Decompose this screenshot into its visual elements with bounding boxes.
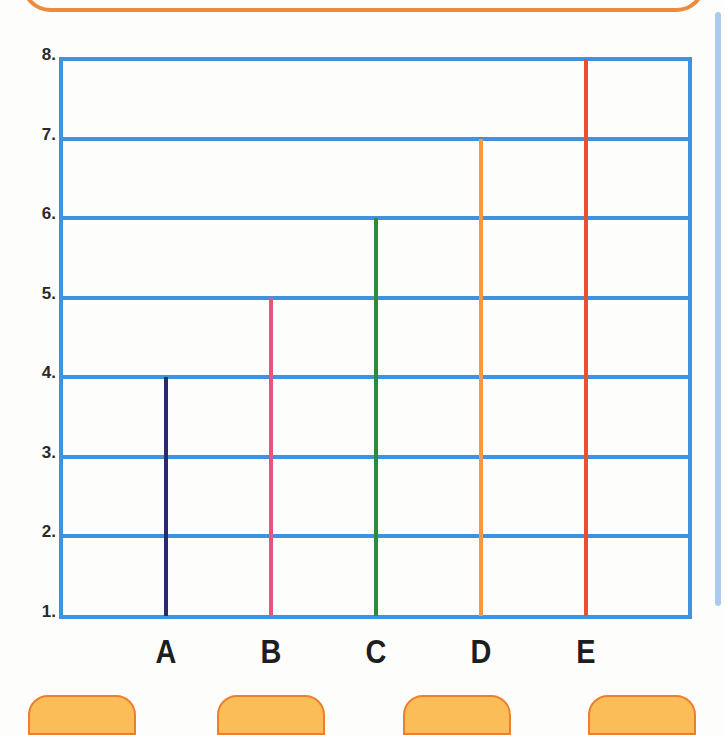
x-tick-label: E <box>569 632 603 671</box>
y-tick-label: 2. <box>30 522 56 542</box>
bar-e <box>584 59 588 616</box>
bar-d <box>479 139 483 616</box>
x-tick-label: B <box>254 632 288 671</box>
bar-c <box>374 218 378 616</box>
gridline <box>59 137 692 141</box>
y-tick-label: 3. <box>30 443 56 463</box>
bar-b <box>269 298 273 616</box>
x-tick-label: A <box>149 632 183 671</box>
x-tick-label: D <box>464 632 498 671</box>
x-tick-label: C <box>359 632 393 671</box>
y-tick-label: 7. <box>30 125 56 145</box>
bar-a <box>164 377 168 616</box>
answer-tab-1 <box>28 695 136 735</box>
y-tick-label: 6. <box>30 204 56 224</box>
y-tick-label: 8. <box>30 45 56 65</box>
answer-tab-2 <box>217 695 325 735</box>
y-tick-label: 1. <box>30 602 56 622</box>
side-accent-bar <box>715 12 721 606</box>
answer-tab-3 <box>403 695 511 735</box>
y-tick-label: 4. <box>30 363 56 383</box>
top-header-box <box>22 0 705 12</box>
answer-tab-4 <box>588 695 696 735</box>
y-tick-label: 5. <box>30 284 56 304</box>
